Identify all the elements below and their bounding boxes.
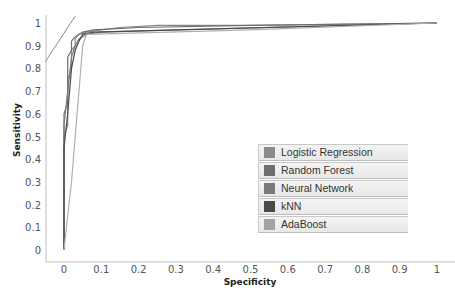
x-tick-label: 0.7 — [317, 264, 333, 275]
legend-swatch-icon — [264, 165, 275, 176]
y-tick-label: 0.4 — [25, 154, 41, 165]
reference-line — [45, 16, 75, 61]
x-tick-label: 0.8 — [354, 264, 370, 275]
legend-item: Logistic Regression — [258, 144, 408, 161]
y-tick-label: 0.3 — [25, 177, 41, 188]
x-tick-label: 0 — [61, 264, 67, 275]
x-tick-label: 0.3 — [168, 264, 184, 275]
legend-label: kNN — [281, 200, 301, 212]
y-tick-label: 0.6 — [25, 109, 41, 120]
y-tick-label: 1 — [35, 18, 41, 29]
y-tick-label: 0.5 — [25, 132, 41, 143]
y-tick-label: 0.8 — [25, 63, 41, 74]
annotations — [45, 16, 75, 61]
legend-label: AdaBoost — [281, 218, 327, 230]
legend-swatch-icon — [264, 183, 275, 194]
legend-swatch-icon — [264, 219, 275, 230]
x-tick-label: 0.9 — [392, 264, 408, 275]
x-tick-label: 1 — [434, 264, 440, 275]
x-tick-label: 0.5 — [243, 264, 259, 275]
legend-item: AdaBoost — [258, 216, 408, 233]
x-tick-label: 0.2 — [131, 264, 147, 275]
legend-label: Random Forest — [281, 164, 353, 176]
legend-label: Neural Network — [281, 182, 353, 194]
x-tick-label: 0.4 — [205, 264, 221, 275]
y-tick-label: 0.7 — [25, 86, 41, 97]
legend-swatch-icon — [264, 147, 275, 158]
y-tick-label: 0.1 — [25, 222, 41, 233]
y-tick-labels: 00.10.20.30.40.50.60.70.80.91 — [25, 18, 41, 256]
x-tick-label: 0.1 — [93, 264, 109, 275]
y-tick-label: 0 — [35, 245, 41, 256]
legend: Logistic RegressionRandom ForestNeural N… — [258, 144, 408, 234]
legend-item: Random Forest — [258, 162, 408, 179]
legend-label: Logistic Regression — [281, 146, 373, 158]
x-tick-labels: 00.10.20.30.40.50.60.70.80.91 — [61, 264, 440, 275]
y-tick-label: 0.9 — [25, 41, 41, 52]
y-axis-title: Sensitivity — [12, 103, 22, 157]
legend-item: kNN — [258, 198, 408, 215]
legend-swatch-icon — [264, 201, 275, 212]
x-axis-title: Specificity — [224, 277, 277, 287]
y-tick-label: 0.2 — [25, 200, 41, 211]
x-tick-label: 0.6 — [280, 264, 296, 275]
legend-item: Neural Network — [258, 180, 408, 197]
